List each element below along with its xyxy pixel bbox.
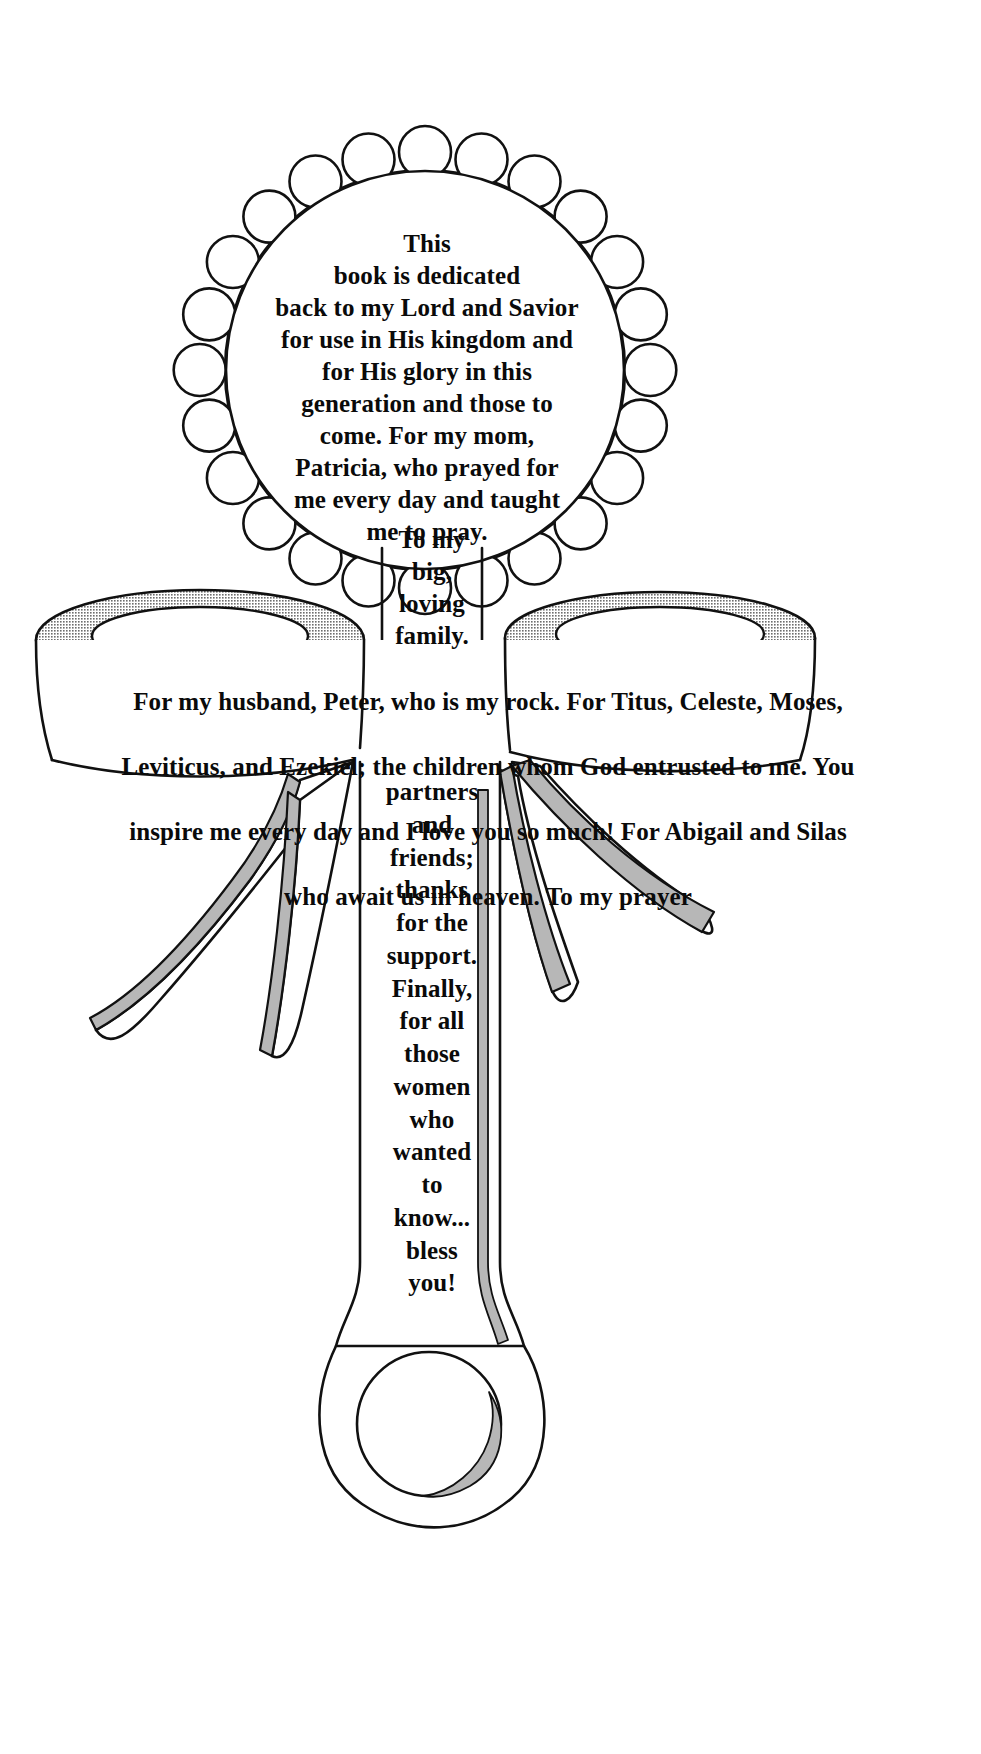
dedication-handle-text: partners and friends; thanks for the sup… [372, 776, 492, 1300]
band-line: For my husband, Peter, who is my rock. F… [48, 686, 928, 719]
dedication-head-text: This book is dedicated back to my Lord a… [262, 228, 592, 548]
dedication-page: This book is dedicated back to my Lord a… [0, 0, 981, 1754]
bottom-teething-ring [320, 1346, 545, 1527]
dedication-neck-text: To my big, loving family. [374, 524, 490, 652]
